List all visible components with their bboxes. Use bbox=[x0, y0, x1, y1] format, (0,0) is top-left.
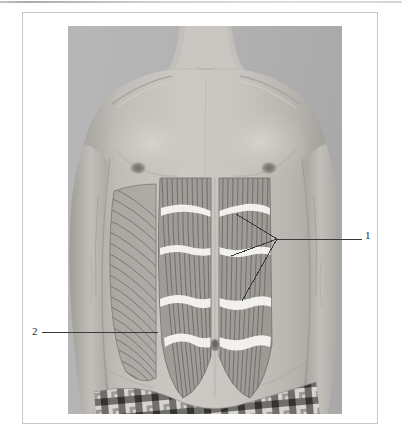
torso-photograph bbox=[68, 26, 342, 414]
nipple-left bbox=[129, 161, 147, 175]
callout-label-2[interactable]: 2 bbox=[32, 326, 38, 337]
page-canvas: 1 2 bbox=[0, 0, 402, 437]
nipple-right bbox=[260, 161, 278, 175]
torso-illustration bbox=[68, 26, 342, 414]
rectus-abdominis-overlay bbox=[158, 176, 272, 406]
callout-label-1[interactable]: 1 bbox=[365, 230, 371, 241]
top-scan-rule bbox=[0, 1, 402, 3]
